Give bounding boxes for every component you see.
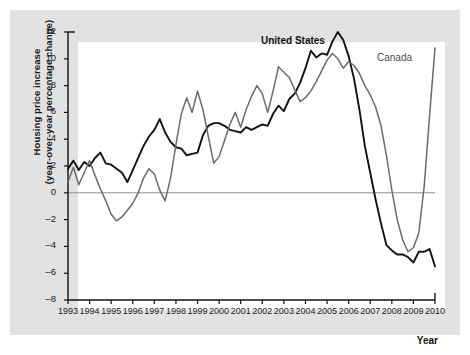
y-axis-tick-label: –8 (28, 293, 56, 304)
axis-spines (68, 32, 435, 300)
y-axis-tick-label: 6 (28, 105, 56, 116)
y-axis-tick-label: –4 (28, 239, 56, 250)
y-axis-tick-label: 10 (28, 52, 56, 63)
x-axis-tick-label: 2010 (420, 306, 450, 316)
chart-figure: Housing price increase (year-over-year p… (0, 0, 470, 355)
series-line-united-states (68, 32, 435, 267)
y-axis-tick-label: 12 (28, 25, 56, 36)
y-axis-tick-label: –2 (28, 213, 56, 224)
y-axis-tick-label: 0 (28, 186, 56, 197)
y-axis-tick-label: 8 (28, 79, 56, 90)
plot-svg (0, 0, 470, 355)
y-axis-tick-label: –6 (28, 266, 56, 277)
y-axis-tick-label: 4 (28, 132, 56, 143)
y-axis-tick-label: 2 (28, 159, 56, 170)
